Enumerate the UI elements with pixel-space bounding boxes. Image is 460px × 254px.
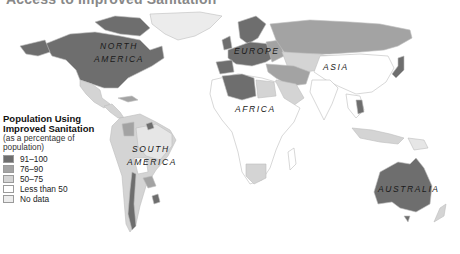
label-south-america-1: SOUTH (132, 144, 170, 154)
alaska (20, 40, 50, 56)
russia (270, 20, 412, 54)
legend-item-label: Less than 50 (20, 184, 68, 194)
swatch-no-data (3, 195, 14, 203)
swatch-less-than-50 (3, 185, 14, 193)
legend-item-label: 76–90 (20, 164, 43, 174)
indonesia (352, 128, 404, 144)
caribbean (118, 96, 138, 102)
new-zealand (434, 204, 446, 222)
scandinavia (238, 16, 266, 44)
legend-item: 50–75 (3, 174, 113, 184)
swatch-76-90 (3, 165, 14, 173)
legend-item: 76–90 (3, 164, 113, 174)
colombia (122, 122, 134, 136)
label-europe: EUROPE (234, 46, 280, 56)
label-africa: AFRICA (234, 104, 276, 114)
greenland (150, 12, 222, 40)
uk (222, 36, 232, 50)
swatch-50-75 (3, 175, 14, 183)
label-asia: ASIA (322, 62, 349, 72)
swatch-91-100 (3, 155, 14, 163)
label-north-america-2: AMERICA (93, 54, 144, 64)
legend-item: Less than 50 (3, 184, 113, 194)
legend-subtitle-2: population) (3, 143, 113, 152)
legend-item-label: 91–100 (20, 154, 48, 164)
papua (408, 138, 428, 150)
egypt (256, 80, 276, 98)
legend-item-label: 50–75 (20, 174, 43, 184)
tasmania (404, 216, 410, 222)
madagascar (288, 148, 296, 170)
legend-item: 91–100 (3, 154, 113, 164)
uruguay (152, 194, 160, 204)
iberia (216, 60, 234, 74)
label-south-america-2: AMERICA (126, 157, 177, 167)
legend: Population Using Improved Sanitation (as… (3, 114, 113, 204)
arctic-islands (95, 16, 150, 36)
india (310, 80, 338, 120)
label-australia: AUSTRALIA (377, 184, 440, 194)
label-north-america-1: NORTH (100, 41, 138, 51)
legend-item-label: No data (20, 194, 49, 204)
legend-item: No data (3, 194, 113, 204)
